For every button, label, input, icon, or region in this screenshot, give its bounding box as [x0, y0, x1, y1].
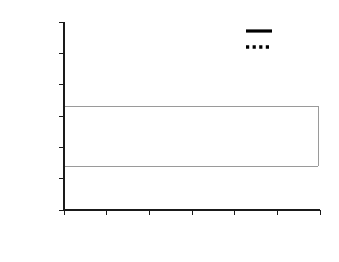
y-axis-ticks	[59, 22, 64, 210]
chart-plot-area	[0, 0, 339, 262]
x-axis-ticks	[64, 210, 320, 215]
chart-legend	[246, 31, 272, 47]
chart-figure	[0, 0, 339, 262]
osteopenia-band	[64, 106, 318, 166]
